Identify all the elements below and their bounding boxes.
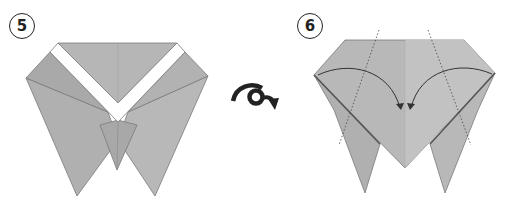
step-5-model <box>26 43 208 196</box>
step-6-model <box>314 30 495 193</box>
origami-diagram <box>0 0 506 213</box>
turn-over-icon <box>233 85 279 110</box>
